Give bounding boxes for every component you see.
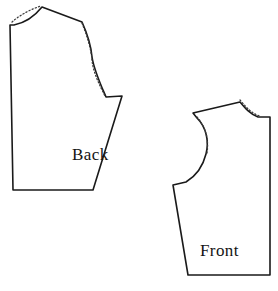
front-piece-label: Front bbox=[200, 241, 239, 260]
pattern-diagram: Back Front bbox=[0, 0, 278, 291]
pattern-canvas: Back Front bbox=[0, 0, 278, 291]
pattern-piece-back: Back bbox=[10, 6, 122, 190]
pattern-piece-front: Front bbox=[173, 100, 270, 275]
back-piece-label: Back bbox=[72, 145, 109, 164]
